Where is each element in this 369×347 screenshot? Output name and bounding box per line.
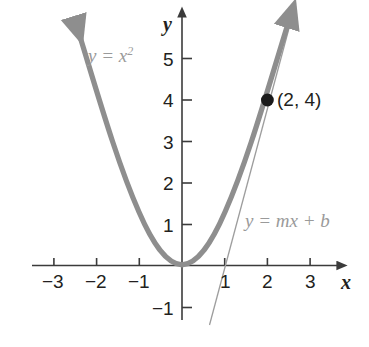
tangent-equation-label: y = mx + b <box>245 211 330 230</box>
y-tick-label-3: 3 <box>163 133 174 152</box>
y-axis <box>182 16 192 320</box>
math-figure-parabola-tangent: −3 −2 −1 1 2 3 5 4 3 2 1 −1 x y y = x2 y… <box>0 0 369 347</box>
point-coordinates-label: (2, 4) <box>277 90 321 109</box>
y-tick-label-2: 2 <box>163 174 174 193</box>
parabola-equation-text: y = x <box>88 45 127 66</box>
x-tick-label--2: −2 <box>85 272 107 291</box>
parabola-equation-label: y = x2 <box>88 46 133 65</box>
y-axis-label: y <box>163 14 172 34</box>
x-axis-label: x <box>341 272 351 292</box>
x-tick-label-2: 2 <box>262 272 273 291</box>
parabola-exponent: 2 <box>127 44 133 58</box>
plot-canvas <box>0 0 369 347</box>
x-tick-label--1: −1 <box>128 272 150 291</box>
point-2-4-marker <box>261 94 274 107</box>
y-tick-label--1: −1 <box>152 299 174 318</box>
y-tick-label-1: 1 <box>163 216 174 235</box>
y-axis-ticks <box>182 59 192 308</box>
y-tick-label-4: 4 <box>163 91 174 110</box>
y-tick-label-5: 5 <box>163 50 174 69</box>
x-tick-label-1: 1 <box>220 272 231 291</box>
x-tick-label-3: 3 <box>305 272 316 291</box>
x-tick-label--3: −3 <box>42 272 64 291</box>
